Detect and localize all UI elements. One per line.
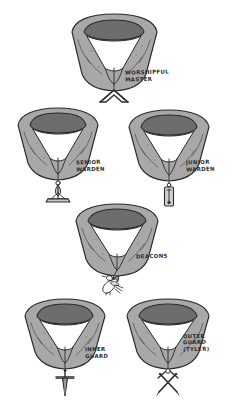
label-junior-warden: JUNIOR WARDEN <box>186 159 215 173</box>
collar-drawing <box>62 10 170 102</box>
level-icon <box>46 181 70 202</box>
crossed-swords-icon <box>157 369 179 395</box>
illustration-canvas: WORSHIPFUL MASTER <box>0 0 238 412</box>
label-deacons: DEACONS <box>136 253 168 260</box>
label-inner-guard: INNER GUARD <box>85 346 109 360</box>
sword-icon <box>56 369 74 396</box>
collar-drawing <box>68 200 172 296</box>
label-worshipful-master: WORSHIPFUL MASTER <box>125 68 169 82</box>
square-icon <box>100 90 128 102</box>
label-senior-warden: SENIOR WARDEN <box>76 159 105 173</box>
dove-icon <box>102 275 123 295</box>
collar-drawing <box>10 105 110 205</box>
label-outer-guard: OUTER GUARD (TYLER) <box>183 333 210 353</box>
